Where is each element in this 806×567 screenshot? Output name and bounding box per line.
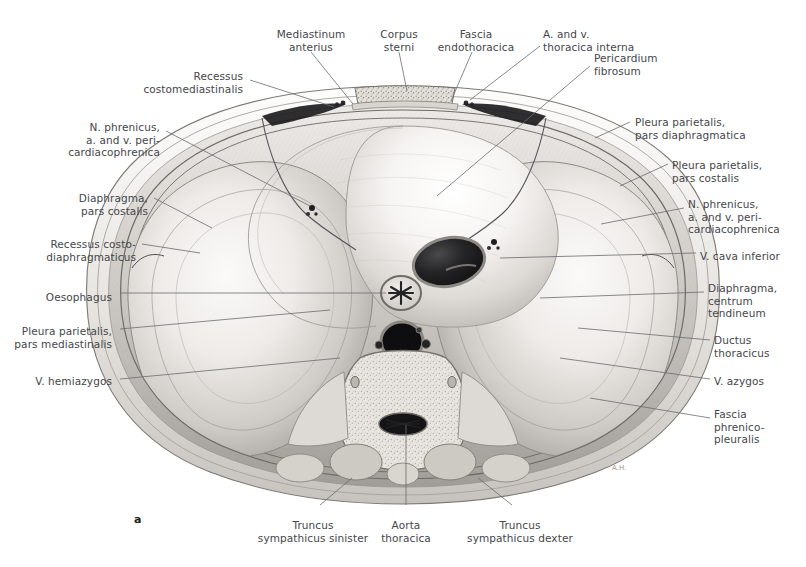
panel-label: a [134, 513, 141, 526]
label-ductus-thoracicus: Ductus thoracicus [714, 334, 770, 359]
label-v-hemiazygos: V. hemiazygos [35, 375, 112, 388]
label-pleura-parietalis-pars-costalis: Pleura parietalis, pars costalis [672, 159, 762, 184]
thorax-cross-section-figure: A.H. [0, 0, 806, 567]
label-v-azygos: V. azygos [714, 375, 764, 388]
truncus-sympathicus-dexter [448, 376, 456, 387]
v-azygos [422, 340, 431, 349]
erector-spinae-left [330, 444, 382, 480]
artist-signature: A.H. [612, 464, 626, 472]
label-pleura-parietalis-pars-mediastinalis: Pleura parietalis, pars mediastinalis [14, 325, 112, 350]
label-diaphragma-centrum-tendineum: Diaphragma, centrum tendineum [708, 282, 777, 320]
label-n-phrenicus-right: N. phrenicus, a. and v. peri- cardiacoph… [688, 198, 780, 236]
paraspinal-muscle-left [276, 454, 324, 482]
label-oesophagus: Oesophagus [46, 291, 112, 304]
label-fascia-phrenicopleuralis: Fascia phrenico- pleuralis [714, 408, 765, 446]
label-recessus-costomediastinalis: Recessus costomediastinalis [143, 70, 243, 95]
paraspinal-muscle-right [482, 454, 530, 482]
label-recessus-costodiaphragmaticus: Recessus costo- diaphragmaticus [46, 238, 136, 263]
oesophagus [381, 276, 421, 310]
label-truncus-sympathicus-dexter: Truncus sympathicus dexter [410, 519, 630, 544]
erector-spinae-right [424, 444, 476, 480]
label-pleura-parietalis-pars-diaphragmatica: Pleura parietalis, pars diaphragmatica [635, 116, 746, 141]
ductus-thoracicus [416, 327, 422, 333]
v-hemiazygos [375, 341, 383, 349]
spinous-process-muscle [387, 463, 419, 485]
label-pericardium-fibrosum: Pericardium fibrosum [594, 52, 658, 77]
label-diaphragma-pars-costalis: Diaphragma, pars costalis [79, 192, 148, 217]
truncus-sympathicus-sinister [351, 376, 359, 387]
label-n-phrenicus-left: N. phrenicus, a. and v. peri- cardiacoph… [68, 121, 160, 159]
label-a-and-v-thoracica-interna: A. and v. thoracica interna [543, 28, 634, 53]
label-v-cava-inferior: V. cava inferior [700, 250, 780, 263]
